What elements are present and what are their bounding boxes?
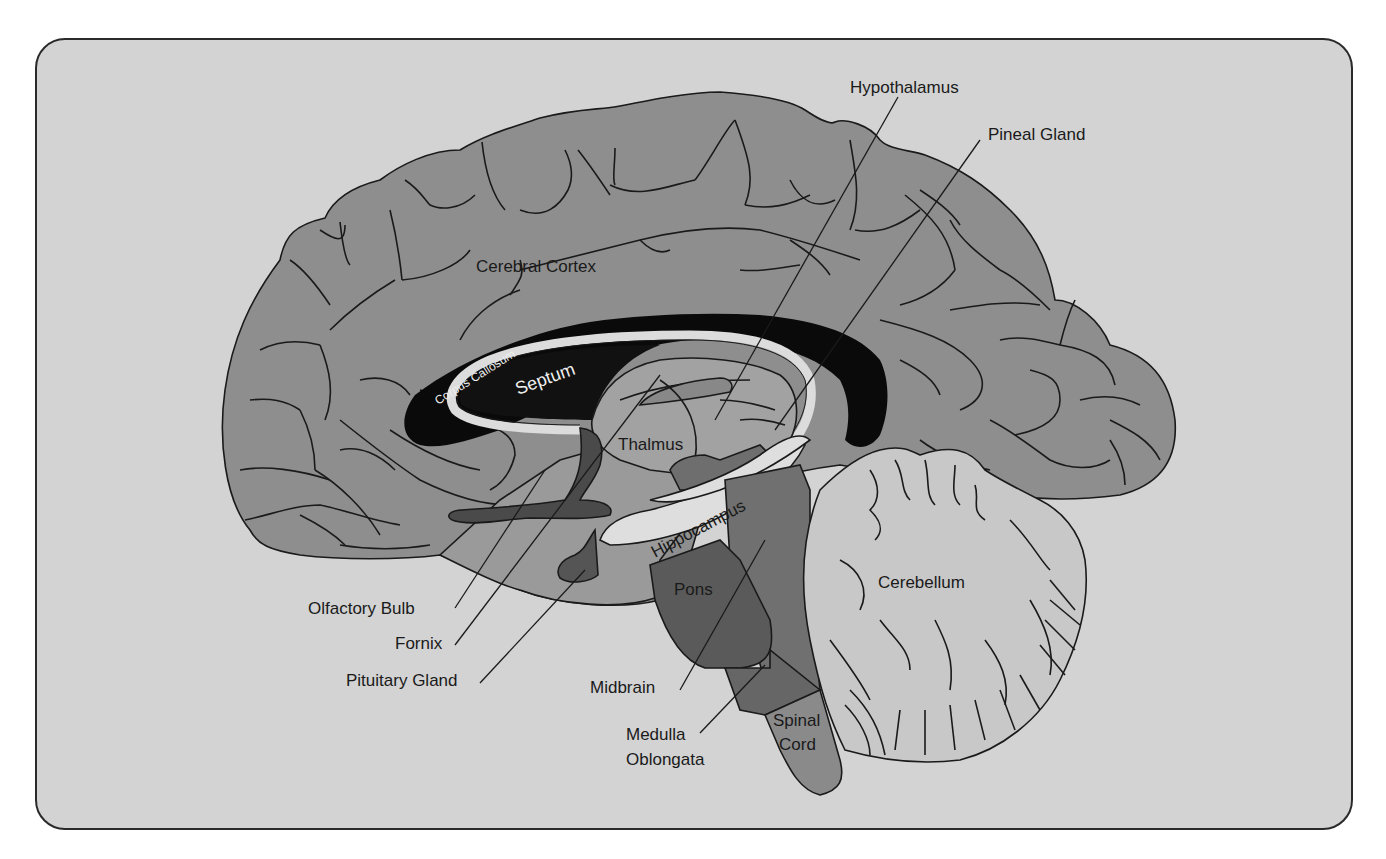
label-oblongata: Oblongata — [626, 750, 705, 769]
label-pons: Pons — [674, 580, 713, 599]
label-cerebellum: Cerebellum — [878, 573, 965, 592]
label-pituitary-gland: Pituitary Gland — [346, 671, 458, 690]
label-spinal: Spinal — [773, 711, 820, 730]
label-pineal-gland: Pineal Gland — [988, 125, 1085, 144]
label-fornix: Fornix — [395, 634, 443, 653]
brain-diagram: Hypothalamus Pineal Gland Cerebral Corte… — [0, 0, 1386, 859]
label-medulla: Medulla — [626, 725, 686, 744]
label-thalmus: Thalmus — [618, 435, 683, 454]
label-midbrain: Midbrain — [590, 678, 655, 697]
label-hypothalamus: Hypothalamus — [850, 78, 959, 97]
label-olfactory-bulb: Olfactory Bulb — [308, 599, 415, 618]
label-cerebral-cortex: Cerebral Cortex — [476, 257, 596, 276]
label-cord: Cord — [779, 735, 816, 754]
